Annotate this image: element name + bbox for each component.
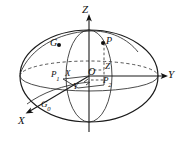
point-px-label: X bbox=[65, 69, 71, 78]
point-p-label: P bbox=[106, 36, 112, 46]
py-to-p2-line bbox=[78, 85, 104, 88]
point-p1-label-sub: 1 bbox=[56, 75, 59, 82]
point-pz-label: Z bbox=[105, 62, 110, 71]
point-p1-label: P1 bbox=[51, 70, 60, 81]
x-axis-arrowhead bbox=[26, 107, 34, 113]
origin-hatch-1 bbox=[84, 79, 88, 82]
y-axis-label: Y bbox=[168, 69, 174, 80]
point-g0-label: G0 bbox=[41, 100, 51, 111]
point-g-dot bbox=[57, 43, 61, 47]
z-axis-label: Z bbox=[82, 4, 88, 15]
point-p2-label-sub: 2 bbox=[108, 81, 111, 88]
sphere-coordinate-figure: Z Y X O P G G0 P1 P2 X Y Z bbox=[0, 0, 179, 143]
great-circle-arc-gp bbox=[20, 31, 138, 74]
origin-label: O bbox=[88, 67, 95, 77]
x-axis-label: X bbox=[18, 115, 25, 126]
point-py-label: Y bbox=[73, 82, 78, 91]
point-p2-label: P2 bbox=[103, 76, 112, 87]
point-g0-label-sub: 0 bbox=[47, 105, 50, 112]
point-g-label: G bbox=[50, 38, 57, 48]
point-p-dot bbox=[101, 41, 105, 45]
